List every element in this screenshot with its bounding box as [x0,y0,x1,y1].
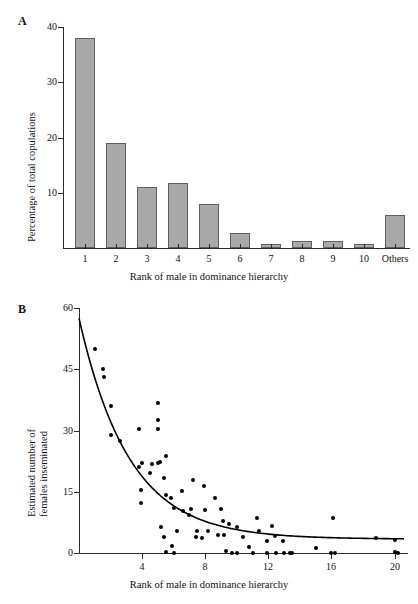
data-point [164,550,168,554]
data-point [137,427,141,431]
data-point [235,551,239,555]
panel-a-y-axis [63,27,64,249]
data-point [230,551,234,555]
data-point [273,534,277,538]
panel-a-x-tick [178,244,179,248]
bar [168,183,188,248]
data-point [247,545,251,549]
data-point [162,476,166,480]
panel-a-x-tick [147,244,148,248]
panel-a-x-tick [395,244,396,248]
data-point [181,509,185,513]
data-point [251,551,255,555]
data-point [169,496,173,500]
data-point [333,551,337,555]
data-point [158,460,162,464]
data-point [109,404,113,408]
data-point [281,539,285,543]
panel-a-letter: A [18,14,27,29]
panel-a-x-tick [116,244,117,248]
panel-a-x-tick [85,244,86,248]
panel-a-y-axis-title: Percentage of total copulations [26,112,37,242]
data-point [156,427,160,431]
data-point [109,433,113,437]
data-point [195,529,199,533]
data-point [194,535,198,539]
data-point [162,535,166,539]
data-point [180,489,184,493]
data-point [164,454,168,458]
data-point [159,525,163,529]
panel-a-x-axis-title: Rank of male in dominance hierarchy [0,271,418,282]
panel-a-x-tick [364,244,365,248]
panel-a-y-tick-label: 30 [33,77,57,87]
data-point [191,478,195,482]
bar [75,38,95,248]
data-point [216,533,220,537]
data-point [203,508,207,512]
panel-b-y-axis-title-line1: Estimated number of [26,429,37,517]
data-point [172,506,176,510]
data-point [206,529,210,533]
panel-a-y-tick [58,82,63,83]
panel-b-x-axis-title: Rank of male in dominance hierarchy [0,579,418,590]
panel-a-x-tick [333,244,334,248]
data-point [222,533,226,537]
panel-a-x-tick [209,244,210,248]
data-point [235,525,239,529]
data-point [93,347,97,351]
fit-curve [0,292,418,604]
data-point [156,401,160,405]
panel-a-x-tick [302,244,303,248]
data-point [118,439,122,443]
data-point [139,501,143,505]
bar [137,187,157,248]
panel-a-y-tick [58,138,63,139]
data-point [221,519,225,523]
bar [199,204,219,248]
panel-a-y-tick [58,193,63,194]
panel-a: A 1020304012345678910OthersRank of male … [0,0,418,292]
data-point [270,524,274,528]
data-point [396,551,400,555]
panel-a-x-tick-label: Others [373,254,417,264]
panel-b-y-axis-title-line2: females inseminated [38,431,49,517]
panel-a-y-tick [58,27,63,28]
data-point [200,536,204,540]
data-point [314,546,318,550]
data-point [213,496,217,500]
bar [106,143,126,248]
data-point [139,488,143,492]
panel-b: B 01530456048121620Rank of male in domin… [0,292,418,604]
data-point [265,551,269,555]
data-point [265,539,269,543]
panel-a-x-tick [240,244,241,248]
data-point [150,462,154,466]
figure-container: A 1020304012345678910OthersRank of male … [0,0,418,604]
panel-a-x-tick [271,244,272,248]
data-point [374,536,378,540]
data-point [175,529,179,533]
data-point [172,551,176,555]
data-point [393,538,397,542]
data-point [164,493,168,497]
data-point [257,529,261,533]
panel-a-y-tick-label: 40 [33,22,57,32]
data-point [290,551,294,555]
panel-a-x-axis [63,248,410,249]
